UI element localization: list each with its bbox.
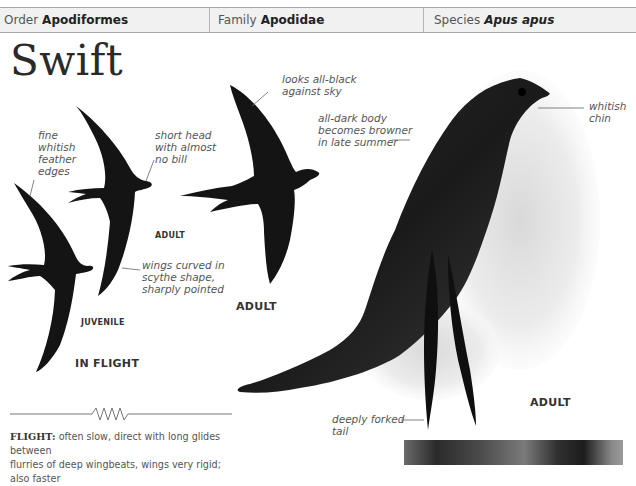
annotation-line: feather — [38, 153, 76, 165]
label-adult-small: ADULT — [155, 231, 185, 240]
adult-swift-flight-illustration — [180, 85, 319, 284]
flight-description: FLIGHT: often slow, direct with long gli… — [10, 430, 235, 486]
label-adult-flight: ADULT — [236, 300, 277, 313]
annotation-line: no bill — [155, 153, 216, 165]
annotation-line: wings curved in — [142, 259, 225, 271]
annotation-line: short head — [155, 129, 216, 141]
annotation-whitish-chin: whitish chin — [589, 100, 626, 124]
annotation-line: whitish — [589, 100, 626, 112]
annotation-line: becomes browner — [318, 124, 412, 136]
flight-line-2: flurries of deep wingbeats, wings very r… — [10, 459, 221, 484]
annotation-line: fine — [38, 129, 76, 141]
annotation-dark-body: all-dark body becomes browner in late su… — [318, 112, 412, 148]
nest-photo — [404, 440, 623, 465]
annotation-line: sharply pointed — [142, 283, 225, 295]
annotation-forked-tail: deeply forked tail — [332, 413, 404, 437]
annotation-line: chin — [589, 112, 626, 124]
annotation-line: against sky — [282, 85, 357, 97]
annotation-line: all-dark body — [318, 112, 412, 124]
annotation-wings-curved: wings curved in scythe shape, sharply po… — [142, 259, 225, 295]
annotation-short-head: short head with almost no bill — [155, 129, 216, 165]
annotation-looks-black: looks all-black against sky — [282, 73, 357, 97]
annotation-line: in late summer — [318, 136, 412, 148]
annotation-line: edges — [38, 165, 76, 177]
label-in-flight: IN FLIGHT — [75, 357, 139, 370]
annotation-line: with almost — [155, 141, 216, 153]
juvenile-swift-illustration — [8, 183, 93, 372]
flight-key: FLIGHT: — [10, 431, 56, 442]
annotation-line: tail — [332, 425, 404, 437]
label-juvenile: JUVENILE — [81, 318, 125, 327]
label-adult-perched: ADULT — [530, 396, 571, 409]
annotation-line: looks all-black — [282, 73, 357, 85]
eye-icon — [518, 88, 526, 96]
annotation-fine-edges: fine whitish feather edges — [38, 129, 76, 177]
annotation-line: whitish — [38, 141, 76, 153]
flight-pattern-icon — [10, 407, 232, 421]
annotation-line: deeply forked — [332, 413, 404, 425]
annotation-line: scythe shape, — [142, 271, 225, 283]
